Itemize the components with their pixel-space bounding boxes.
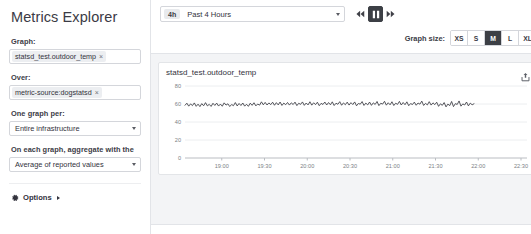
aggregate-value: Average of reported values <box>15 160 104 169</box>
rewind-icon <box>356 10 365 18</box>
graph-size-m[interactable]: M <box>485 31 502 45</box>
one-graph-per-select[interactable]: Entire infrastructure <box>9 121 141 136</box>
graph-size-label: Graph size: <box>405 34 445 43</box>
svg-text:20:30: 20:30 <box>343 163 357 169</box>
field-graph: Graph: statsd_test.outdoor_temp × <box>9 37 141 64</box>
field-one-graph-per: One graph per: Entire infrastructure <box>9 109 141 136</box>
graph-metric-input[interactable]: statsd_test.outdoor_temp × <box>9 49 141 64</box>
time-range-select[interactable]: 4h Past 4 Hours <box>160 6 345 22</box>
metric-tag-label: statsd_test.outdoor_temp <box>15 52 96 61</box>
main-area: 4h Past 4 Hours <box>151 0 531 234</box>
chevron-right-icon <box>57 196 60 200</box>
svg-text:21:30: 21:30 <box>429 163 443 169</box>
chevron-down-icon <box>132 163 136 166</box>
chart-card: statsd_test.outdoor_temp 02040608019:001… <box>158 62 531 175</box>
remove-tag-icon[interactable]: × <box>95 89 99 96</box>
graph-size-group: XS S M L XL <box>450 30 531 46</box>
graph-size-xs[interactable]: XS <box>451 31 468 45</box>
pause-icon <box>372 10 380 19</box>
line-chart-svg: 02040608019:0019:3020:0020:3021:0021:302… <box>165 82 531 174</box>
field-one-graph-per-label: One graph per: <box>11 109 141 118</box>
svg-text:40: 40 <box>175 119 181 125</box>
svg-text:20:00: 20:00 <box>300 163 314 169</box>
scope-tag[interactable]: metric-source:dogstatsd × <box>12 87 102 98</box>
svg-text:0: 0 <box>178 155 181 161</box>
options-toggle[interactable]: Options <box>11 193 141 202</box>
svg-text:22:00: 22:00 <box>471 163 485 169</box>
options-label: Options <box>23 193 52 202</box>
chevron-down-icon <box>336 13 340 16</box>
svg-text:19:00: 19:00 <box>215 163 229 169</box>
aggregate-select[interactable]: Average of reported values <box>9 157 141 172</box>
field-over-label: Over: <box>11 73 141 82</box>
svg-text:19:30: 19:30 <box>258 163 272 169</box>
footer-strip <box>151 224 531 234</box>
field-aggregate-label: On each graph, aggregate with the <box>11 145 141 154</box>
time-range-badge: 4h <box>164 9 180 19</box>
remove-tag-icon[interactable]: × <box>99 53 103 60</box>
graph-size-s[interactable]: S <box>468 31 485 45</box>
pause-button[interactable] <box>368 6 383 22</box>
fast-forward-icon <box>386 10 395 18</box>
svg-text:60: 60 <box>175 101 181 107</box>
svg-text:22:30: 22:30 <box>514 163 528 169</box>
toolbar-row-graph-size: Graph size: XS S M L XL <box>160 30 531 46</box>
fast-forward-button[interactable] <box>384 6 397 22</box>
svg-text:80: 80 <box>175 83 181 89</box>
chart-plot[interactable]: 02040608019:0019:3020:0020:3021:0021:302… <box>165 82 531 174</box>
time-range-value: Past 4 Hours <box>187 10 336 19</box>
page-title: Metrics Explorer <box>11 9 141 25</box>
graph-size-xl[interactable]: XL <box>519 31 531 45</box>
content-area: statsd_test.outdoor_temp 02040608019:001… <box>151 54 531 175</box>
svg-text:21:00: 21:00 <box>386 163 400 169</box>
rewind-button[interactable] <box>354 6 367 22</box>
metric-tag[interactable]: statsd_test.outdoor_temp × <box>12 51 106 62</box>
metrics-explorer-app: Metrics Explorer Graph: statsd_test.outd… <box>0 0 531 234</box>
graph-size-l[interactable]: L <box>502 31 519 45</box>
toolbar-row-time: 4h Past 4 Hours <box>160 6 531 22</box>
scope-tag-label: metric-source:dogstatsd <box>15 88 92 97</box>
sidebar: Metrics Explorer Graph: statsd_test.outd… <box>0 0 151 234</box>
playback-controls <box>354 6 397 22</box>
chevron-down-icon <box>132 127 136 130</box>
over-scope-input[interactable]: metric-source:dogstatsd × <box>9 85 141 100</box>
field-over: Over: metric-source:dogstatsd × <box>9 73 141 100</box>
gear-icon <box>11 194 19 202</box>
field-aggregate: On each graph, aggregate with the Averag… <box>9 145 141 172</box>
field-graph-label: Graph: <box>11 37 141 46</box>
toolbar: 4h Past 4 Hours <box>151 0 531 54</box>
one-graph-per-value: Entire infrastructure <box>15 124 80 133</box>
chart-title: statsd_test.outdoor_temp <box>166 68 256 77</box>
sidebar-divider <box>9 183 141 184</box>
svg-text:20: 20 <box>175 137 181 143</box>
chart-header: statsd_test.outdoor_temp <box>165 68 531 81</box>
